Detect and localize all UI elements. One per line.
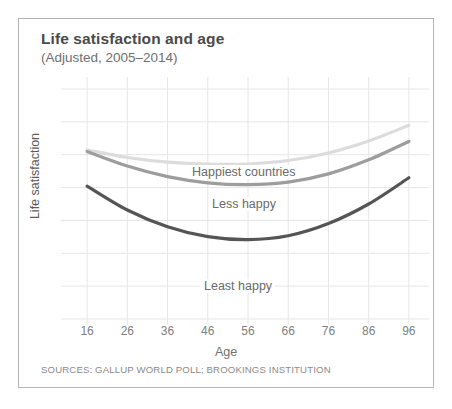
series-label-happiest-countries: Happiest countries bbox=[189, 165, 299, 179]
source-note: SOURCES: GALLUP WORLD POLL; BROOKINGS IN… bbox=[41, 364, 331, 375]
series-label-less-happy: Less happy bbox=[209, 197, 279, 211]
x-tick-label: 36 bbox=[153, 324, 183, 338]
x-tick-label: 56 bbox=[233, 324, 263, 338]
y-axis-label: Life satisfaction bbox=[28, 116, 42, 236]
x-tick-label: 26 bbox=[112, 324, 142, 338]
x-tick-label: 46 bbox=[193, 324, 223, 338]
x-tick-label: 16 bbox=[72, 324, 102, 338]
x-tick-label: 66 bbox=[273, 324, 303, 338]
chart-figure: Life satisfaction and age (Adjusted, 200… bbox=[18, 18, 434, 388]
x-tick-label: 96 bbox=[394, 324, 424, 338]
x-axis-label: Age bbox=[19, 345, 433, 359]
x-tick-label: 76 bbox=[313, 324, 343, 338]
plot-area: Life satisfaction Age 162636465666768696… bbox=[19, 19, 433, 387]
series-label-least-happy: Least happy bbox=[201, 279, 275, 293]
x-tick-label: 86 bbox=[354, 324, 384, 338]
